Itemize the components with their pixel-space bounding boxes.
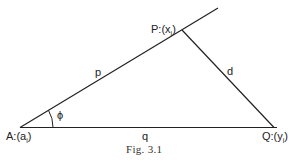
point-label-p: P:(xi) xyxy=(151,24,176,37)
edge-label-q: q xyxy=(142,131,148,142)
segment-pq xyxy=(182,30,274,128)
triangle-figure: P:(xi) A:(ai) Q:(yi) p d q ϕ Fig. 3.1 xyxy=(0,0,296,161)
edge-label-p: p xyxy=(95,67,101,78)
ray-ap xyxy=(20,8,218,128)
angle-label-phi: ϕ xyxy=(57,110,63,121)
point-label-q: Q:(yi) xyxy=(262,131,288,144)
angle-arc xyxy=(49,110,54,127)
edge-label-d: d xyxy=(227,66,233,77)
figure-caption: Fig. 3.1 xyxy=(126,143,162,155)
point-label-a: A:(ai) xyxy=(6,131,31,144)
